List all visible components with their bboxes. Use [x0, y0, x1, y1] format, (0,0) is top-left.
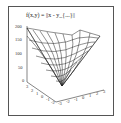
z-tick-50: 50 — [18, 65, 23, 70]
svg-text:-3: -3 — [58, 101, 62, 106]
svg-text:-2: -2 — [51, 100, 55, 105]
svg-text:1: 1 — [89, 93, 91, 98]
z-ticks: 200 150 100 50 0 — [15, 24, 25, 83]
z-tick-0: 0 — [22, 78, 25, 83]
z-tick-200: 200 — [15, 24, 23, 29]
svg-text:0: 0 — [41, 94, 44, 99]
svg-text:1: 1 — [36, 91, 38, 96]
svg-text:0: 0 — [82, 95, 85, 100]
surface-plot: 200 150 100 50 0 3 2 1 0 -1 -2 -3 -2 -1 … — [0, 0, 121, 123]
svg-text:-1: -1 — [46, 97, 50, 102]
svg-text:3: 3 — [103, 89, 106, 94]
svg-text:-2: -2 — [66, 99, 70, 104]
svg-text:-1: -1 — [74, 97, 78, 102]
svg-text:2: 2 — [31, 88, 33, 93]
z-tick-100: 100 — [15, 51, 23, 56]
wireframe — [27, 28, 100, 86]
svg-text:3: 3 — [26, 84, 29, 89]
svg-text:2: 2 — [96, 91, 98, 96]
z-tick-150: 150 — [15, 37, 23, 42]
